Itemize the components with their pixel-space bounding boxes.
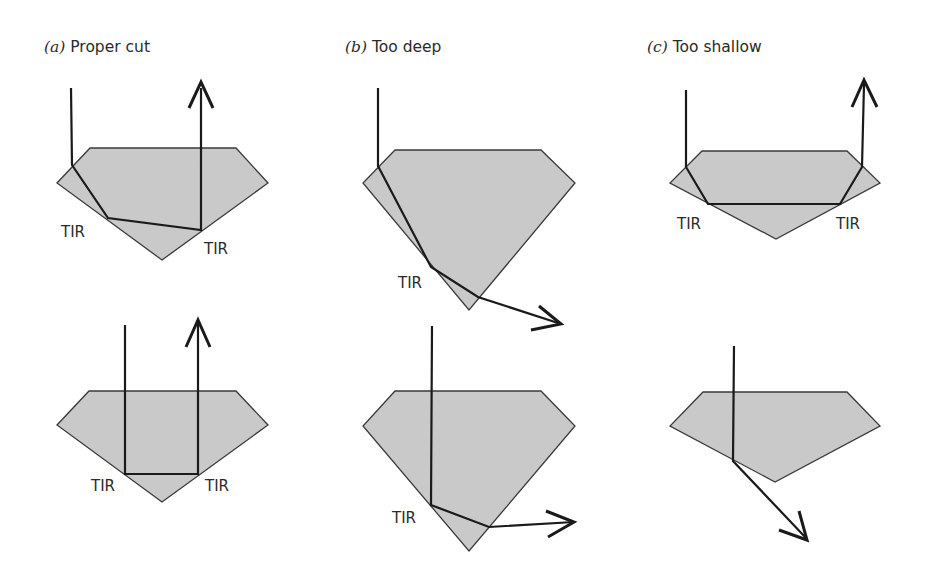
tir-label: TIR [203,240,228,258]
diagram-a-top: TIR TIR [57,82,268,260]
tir-label: TIR [397,274,422,292]
diagram-c-top: TIR TIR [670,80,880,239]
diagram-b-bottom: TIR [363,326,575,551]
diagram-a-bottom: TIR TIR [57,320,268,502]
tir-label: TIR [204,477,229,495]
tir-label: TIR [391,509,416,527]
tir-label: TIR [835,215,860,233]
gem-shape [57,148,268,260]
diagram-c-bottom [670,346,880,540]
tir-label: TIR [60,223,85,241]
diagram-b-top: TIR [363,88,575,330]
tir-label: TIR [676,215,701,233]
gem-shape [363,391,575,551]
gem-shape [670,392,880,482]
gem-shape [363,150,575,310]
diagram-canvas: TIR TIR TIR TIR TIR TIR TIR TIR [0,0,928,585]
tir-label: TIR [90,477,115,495]
gem-shape [57,391,268,502]
